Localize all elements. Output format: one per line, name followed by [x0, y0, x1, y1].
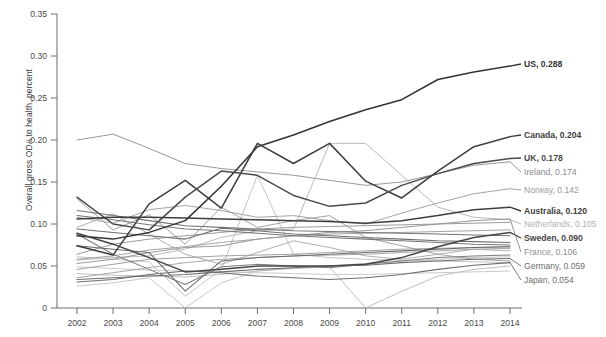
y-tick-label: 0.15 — [30, 177, 47, 187]
x-tick-label: 2003 — [104, 318, 123, 328]
chart-root: Overall gross ODA to health, percent 00.… — [0, 0, 606, 337]
leader-line-ireland — [510, 162, 521, 172]
series-line-ireland — [77, 134, 510, 185]
leader-lines — [510, 64, 521, 280]
series-label-us: US, 0.288 — [524, 59, 562, 69]
x-tick-label: 2002 — [67, 318, 86, 328]
y-tick-label: 0 — [42, 303, 47, 313]
leader-line-france — [510, 219, 521, 252]
leader-line-us — [510, 64, 521, 66]
leader-line-australia — [510, 207, 521, 211]
series-label-ireland: Ireland, 0.174 — [524, 167, 577, 177]
y-tick-label: 0.25 — [30, 93, 47, 103]
series-line-norway — [77, 189, 510, 224]
x-tick-label: 2006 — [212, 318, 231, 328]
x-tick-label: 2008 — [284, 318, 303, 328]
x-tick-label: 2014 — [500, 318, 519, 328]
x-tick-label: 2011 — [393, 318, 412, 328]
series-label-uk: UK, 0.178 — [524, 153, 563, 163]
series-lines — [77, 66, 510, 308]
series-label-france: France, 0.106 — [524, 247, 577, 257]
y-tick-label: 0.30 — [30, 51, 47, 61]
y-tick-label: 0.35 — [30, 9, 47, 19]
y-tick-label: 0.10 — [30, 219, 47, 229]
x-tick-label: 2010 — [356, 318, 375, 328]
series-label-sweden: Sweden, 0.090 — [524, 233, 583, 243]
series-label-australia: Australia, 0.120 — [524, 206, 587, 216]
series-end-labels: US, 0.288Canada, 0.204UK, 0.178Ireland, … — [524, 59, 597, 285]
x-tick-label: 2005 — [176, 318, 195, 328]
series-label-germany: Germany, 0.059 — [524, 261, 585, 271]
series-label-netherlands: Netherlands, 0.105 — [524, 219, 597, 229]
x-tick-label: 2013 — [464, 318, 483, 328]
leader-line-canada — [510, 135, 521, 137]
y-tick-label: 0.20 — [30, 135, 47, 145]
series-line-other-7 — [77, 257, 510, 308]
x-tick-label: 2009 — [320, 318, 339, 328]
x-tick-label: 2012 — [428, 318, 447, 328]
line-chart: 00.050.100.150.200.250.300.35 2002200320… — [0, 0, 606, 337]
series-label-japan: Japan, 0.054 — [524, 275, 574, 285]
series-label-canada: Canada, 0.204 — [524, 130, 582, 140]
series-label-norway: Norway, 0.142 — [524, 185, 579, 195]
y-axis-ticks: 00.050.100.150.200.250.300.35 — [30, 9, 57, 313]
leader-line-norway — [510, 189, 521, 190]
x-axis-ticks: 2002200320042005200620072008200920102011… — [67, 308, 519, 328]
series-line-other-12 — [77, 222, 510, 254]
x-tick-label: 2004 — [140, 318, 159, 328]
x-tick-label: 2007 — [248, 318, 267, 328]
y-tick-label: 0.05 — [30, 261, 47, 271]
